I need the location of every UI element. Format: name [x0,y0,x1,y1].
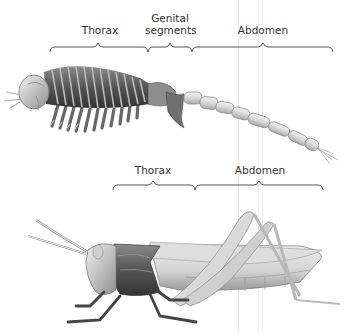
bottom-abdomen-bracket [195,181,323,190]
grasshopper-illustration [28,212,340,322]
ancestral-arthropod-illustration [4,66,338,164]
diagram-figure: Thorax Genital segments Abdomen Thorax A… [0,0,354,333]
top-abdomen-bracket [192,43,333,52]
illustration [0,0,354,333]
top-thorax-bracket [50,43,148,52]
bottom-thorax-bracket [113,181,195,190]
top-genital-bracket [148,43,192,52]
